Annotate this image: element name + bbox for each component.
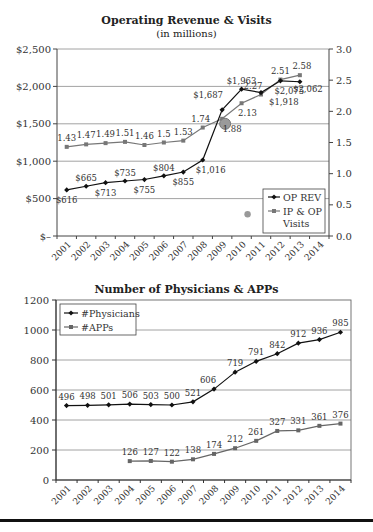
apps-marker xyxy=(275,429,279,433)
physicians-data-label: 912 xyxy=(290,329,306,339)
physicians-data-label: 501 xyxy=(101,391,117,401)
apps-marker xyxy=(191,457,195,461)
apps-data-label: 122 xyxy=(164,448,180,458)
chart2-legend: #Physicians#APPs xyxy=(60,304,140,335)
x-tick-label: 2006 xyxy=(155,483,178,506)
physicians-marker xyxy=(64,403,69,408)
x-tick-label: 2013 xyxy=(303,483,326,506)
physicians-apps-chart: 1200100080060040020002001200220032004200… xyxy=(0,0,373,532)
apps-data-label: 126 xyxy=(122,447,138,457)
physicians-marker xyxy=(127,402,132,407)
apps-marker xyxy=(212,452,216,456)
physicians-data-label: 719 xyxy=(227,358,243,368)
physicians-data-label: 503 xyxy=(143,391,159,401)
y-tick-label: 200 xyxy=(30,445,49,456)
physicians-data-label: 936 xyxy=(311,326,327,336)
apps-data-label: 212 xyxy=(227,434,243,444)
y-tick-label: 800 xyxy=(30,355,49,366)
apps-data-label: 127 xyxy=(143,447,159,457)
physicians-data-label: 985 xyxy=(332,318,348,328)
physicians-marker xyxy=(317,337,322,342)
x-tick-label: 2004 xyxy=(113,483,136,506)
physicians-marker xyxy=(296,341,301,346)
physicians-marker xyxy=(190,399,195,404)
physicians-marker xyxy=(275,351,280,356)
apps-marker xyxy=(317,424,321,428)
apps-data-label: 376 xyxy=(332,410,348,420)
apps-data-label: 261 xyxy=(248,427,264,437)
legend-apps: #APPs xyxy=(81,322,113,333)
apps-data-label: 361 xyxy=(311,412,327,422)
physicians-marker xyxy=(106,402,111,407)
apps-data-label: 138 xyxy=(185,445,201,455)
apps-marker xyxy=(170,460,174,464)
x-tick-label: 2001 xyxy=(50,483,73,506)
physicians-marker xyxy=(169,402,174,407)
physicians-data-label: 506 xyxy=(122,390,138,400)
physicians-marker xyxy=(85,403,90,408)
physicians-marker xyxy=(338,330,343,335)
bottom-rule xyxy=(0,519,373,522)
x-tick-label: 2007 xyxy=(176,483,199,506)
x-tick-label: 2003 xyxy=(92,483,115,506)
x-tick-label: 2010 xyxy=(239,483,262,506)
x-tick-label: 2011 xyxy=(260,483,283,506)
cropped-footer-text xyxy=(4,525,369,532)
y-tick-label: 400 xyxy=(30,415,49,426)
physicians-data-label: 496 xyxy=(58,392,74,402)
apps-marker xyxy=(233,446,237,450)
physicians-data-label: 842 xyxy=(269,340,285,350)
apps-marker xyxy=(254,439,258,443)
y-tick-label: 0 xyxy=(43,475,49,486)
y-tick-label: 1200 xyxy=(24,295,49,306)
x-tick-label: 2002 xyxy=(71,483,94,506)
physicians-data-label: 791 xyxy=(248,347,264,357)
x-tick-label: 2009 xyxy=(218,483,241,506)
physicians-marker xyxy=(148,402,153,407)
y-tick-label: 600 xyxy=(30,385,49,396)
physicians-data-label: 606 xyxy=(200,375,216,385)
x-tick-label: 2014 xyxy=(324,483,347,506)
physicians-marker xyxy=(254,359,259,364)
y-tick-label: 1000 xyxy=(24,325,49,336)
x-tick-label: 2005 xyxy=(134,483,157,506)
legend-physicians: #Physicians xyxy=(81,308,140,319)
x-tick-label: 2008 xyxy=(197,483,220,506)
apps-data-label: 174 xyxy=(206,440,222,450)
apps-legend-icon xyxy=(69,325,73,329)
apps-data-label: 331 xyxy=(290,416,306,426)
apps-marker xyxy=(128,459,132,463)
x-tick-label: 2012 xyxy=(281,483,304,506)
apps-marker xyxy=(338,422,342,426)
physicians-data-label: 500 xyxy=(164,391,180,401)
physicians-data-label: 498 xyxy=(79,391,95,401)
apps-data-label: 327 xyxy=(269,417,285,427)
apps-marker xyxy=(296,428,300,432)
physicians-data-label: 521 xyxy=(185,388,201,398)
apps-marker xyxy=(149,459,153,463)
